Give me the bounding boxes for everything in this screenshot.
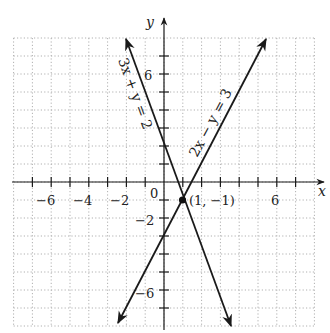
x-tick-label-neg6: −6 bbox=[36, 193, 55, 208]
x-axis-label: x bbox=[318, 183, 326, 199]
y-tick-label-6: 6 bbox=[144, 68, 152, 83]
line-label-2x-minus-y-eq-3: 2x − y = 3 bbox=[186, 86, 235, 160]
origin-label: 0 bbox=[150, 186, 158, 201]
graph: x y 0 −6 −4 −2 6 6 −2 −6 (1, −1) 3x + y … bbox=[0, 0, 330, 333]
y-axis-label: y bbox=[145, 14, 155, 30]
y-tick-label-neg2: −2 bbox=[135, 213, 154, 228]
x-tick-label-neg4: −4 bbox=[73, 193, 92, 208]
y-tick-label-neg6: −6 bbox=[135, 286, 154, 301]
intersection-label: (1, −1) bbox=[189, 193, 235, 208]
x-tick-label-neg2: −2 bbox=[110, 193, 129, 208]
intersection-point bbox=[179, 196, 186, 203]
x-tick-label-6: 6 bbox=[271, 193, 279, 208]
